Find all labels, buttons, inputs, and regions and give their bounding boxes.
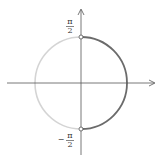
unit-circle-diagram: π 2 − π 2	[0, 0, 159, 161]
bottom-label-numerator: π	[67, 131, 72, 140]
top-label-numerator: π	[67, 17, 72, 26]
bottom-label-sign: −	[58, 135, 65, 144]
bottom-label-denominator: 2	[67, 140, 72, 149]
top-open-point-icon	[79, 35, 83, 39]
bottom-open-point-icon	[79, 127, 83, 131]
top-label-denominator: 2	[67, 26, 72, 35]
